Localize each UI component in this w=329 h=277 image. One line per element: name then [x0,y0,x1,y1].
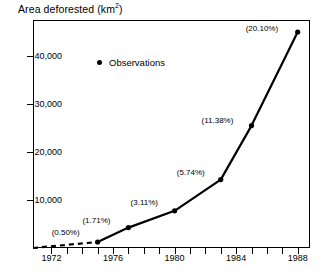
percentage-annotation: (20.10%) [246,24,278,33]
plot-series-layer [0,0,329,277]
observations-line [98,32,298,242]
data-point-marker [249,123,254,128]
percentage-annotation: (11.38%) [202,116,234,125]
percentage-annotation: (5.74%) [177,168,205,177]
data-point-marker [218,177,223,182]
data-point-marker [126,225,131,230]
data-point-marker [95,239,100,244]
extrapolated-dashed-line [33,242,98,248]
observation-markers [95,29,300,244]
percentage-annotation: (0.50%) [52,228,80,237]
data-point-marker [172,208,177,213]
percentage-annotation: (3.11%) [131,198,158,207]
data-point-marker [295,29,300,34]
percentage-annotation: (1.71%) [82,216,110,225]
deforestation-line-chart: Area deforested (km2) 10,00020,00030,000… [0,0,329,277]
